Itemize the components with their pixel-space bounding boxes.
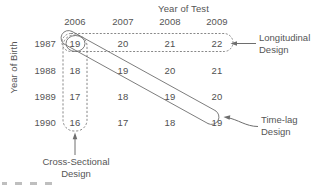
longitudinal-arrow-icon bbox=[231, 41, 257, 46]
cell-1990-2007: 17 bbox=[110, 118, 136, 128]
cell-1990-2008: 18 bbox=[157, 118, 183, 128]
cross-sectional-design-label-line2: Design bbox=[32, 168, 120, 180]
cell-1987-2007: 20 bbox=[110, 39, 136, 49]
cross-sectional-design-label-line1: Cross-Sectional bbox=[32, 156, 120, 168]
time-lag-design-label-line2: Design bbox=[261, 126, 298, 138]
cell-1988-2007: 19 bbox=[110, 66, 136, 76]
row-header-1989: 1989 bbox=[26, 92, 56, 102]
cell-1989-2006: 17 bbox=[62, 92, 88, 102]
column-header-2006: 2006 bbox=[58, 17, 92, 27]
research-design-figure: Year of Test 2006 2007 2008 2009 Year of… bbox=[0, 0, 325, 185]
cell-1989-2007: 18 bbox=[110, 92, 136, 102]
cell-1988-2008: 20 bbox=[157, 66, 183, 76]
cross-sectional-design-label: Cross-Sectional Design bbox=[32, 156, 120, 179]
column-header-2009: 2009 bbox=[200, 17, 234, 27]
column-header-2008: 2008 bbox=[153, 17, 187, 27]
longitudinal-design-label-line1: Longitudinal bbox=[259, 32, 310, 44]
cell-1988-2006: 18 bbox=[62, 66, 88, 76]
longitudinal-design-label-line2: Design bbox=[259, 44, 310, 56]
cell-1990-2009: 19 bbox=[204, 118, 230, 128]
cross-sectional-arrow-icon bbox=[73, 133, 78, 156]
cell-1990-2006: 16 bbox=[62, 118, 88, 128]
cell-1989-2008: 19 bbox=[157, 92, 183, 102]
row-header-1990: 1990 bbox=[26, 118, 56, 128]
row-header-1988: 1988 bbox=[26, 66, 56, 76]
cell-1987-2008: 21 bbox=[157, 39, 183, 49]
cell-1987-2009: 22 bbox=[204, 39, 230, 49]
cell-1987-2006: 19 bbox=[62, 39, 88, 49]
cell-1989-2009: 20 bbox=[204, 92, 230, 102]
row-header-1987: 1987 bbox=[26, 39, 56, 49]
cell-1988-2009: 21 bbox=[204, 66, 230, 76]
time-lag-design-label: Time-lag Design bbox=[261, 114, 298, 137]
row-axis-title: Year of Birth bbox=[8, 33, 19, 103]
time-lag-design-label-line1: Time-lag bbox=[261, 114, 298, 126]
column-axis-title: Year of Test bbox=[0, 4, 325, 14]
cropped-caption-artifact bbox=[2, 182, 58, 185]
longitudinal-design-label: Longitudinal Design bbox=[259, 32, 310, 55]
column-header-2007: 2007 bbox=[106, 17, 140, 27]
